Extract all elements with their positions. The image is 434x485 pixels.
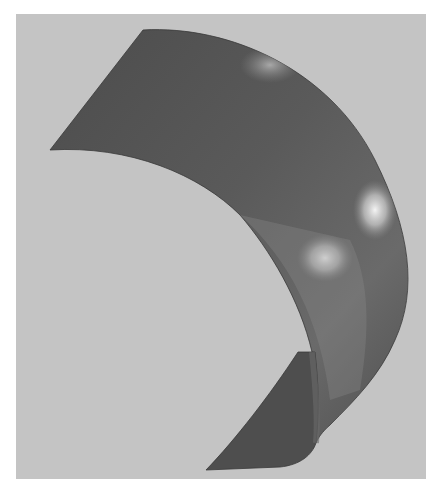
curved-surface-render [0,0,434,485]
surface-lower-flap [206,352,318,470]
specular-highlight-right [353,180,397,240]
specular-highlight-top [240,47,300,83]
